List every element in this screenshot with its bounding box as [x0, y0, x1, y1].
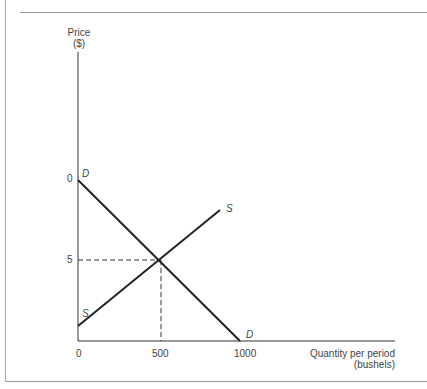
- x-axis-label: Quantity per period (bushels): [306, 348, 395, 370]
- y-axis-label-line1: Price: [66, 27, 92, 38]
- demand-label-top: D: [82, 168, 89, 179]
- demand-label-bottom: D: [246, 329, 253, 340]
- y-tick-0: 0: [67, 173, 73, 184]
- supply-curve: [78, 210, 220, 326]
- x-tick-0: 0: [76, 348, 82, 359]
- y-axis-label-line2: ($): [66, 38, 92, 49]
- y-axis-label: Price ($): [66, 27, 92, 49]
- y-tick-5: 5: [67, 254, 73, 265]
- supply-demand-chart: [0, 0, 427, 389]
- x-axis-label-line2: (bushels): [306, 359, 395, 370]
- x-axis-label-line1: Quantity per period: [306, 348, 395, 359]
- x-tick-1000: 1000: [234, 348, 256, 359]
- supply-label-bottom: S: [82, 308, 89, 319]
- supply-label-top: S: [226, 203, 233, 214]
- x-tick-500: 500: [152, 348, 169, 359]
